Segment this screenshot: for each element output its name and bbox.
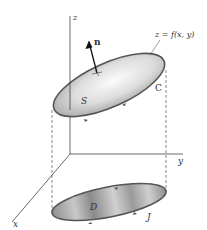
curve-c-arrow [84, 119, 88, 122]
curve-j-label: J [147, 213, 151, 222]
surface-equation-label: z = f(x, y) [155, 31, 194, 39]
x-axis-label: x [13, 220, 18, 229]
normal-label: n [94, 38, 101, 47]
z-axis-label: z [73, 14, 77, 22]
curve-j-arrow [88, 222, 92, 224]
curve-c-label: C [155, 84, 162, 93]
curve-j-arrow [133, 212, 137, 215]
region-label: D [90, 203, 97, 212]
equation-leader [150, 40, 160, 55]
y-axis-label: y [178, 157, 183, 166]
surface-label: S [81, 97, 87, 106]
surface-diagram: z n z = f(x, y) S C y D J x [0, 0, 207, 230]
surface-s [45, 40, 173, 129]
